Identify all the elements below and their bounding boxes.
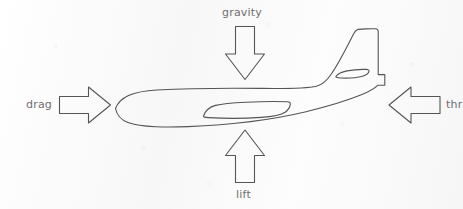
- arrow-right-icon: [60, 87, 111, 123]
- force-label-thrust: thr: [446, 99, 462, 110]
- wing-outline: [203, 102, 290, 119]
- force-diagram: gravity lift drag thr: [0, 0, 463, 209]
- diagram-artwork: [0, 0, 463, 209]
- arrow-down-icon: [226, 27, 265, 80]
- force-label-gravity: gravity: [222, 7, 262, 18]
- force-label-drag: drag: [26, 99, 52, 110]
- airplane-drawing: [116, 29, 385, 127]
- arrow-up-icon: [226, 130, 265, 183]
- horizontal-stabilizer-outline: [336, 69, 369, 78]
- force-label-lift: lift: [236, 189, 251, 200]
- arrow-left-icon: [389, 87, 440, 123]
